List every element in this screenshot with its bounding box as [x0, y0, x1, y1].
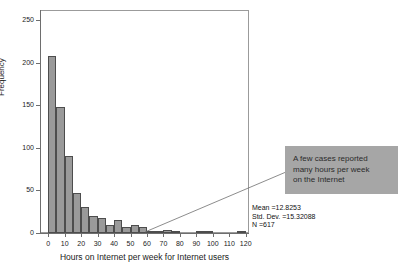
y-tick-label: 100	[22, 143, 34, 152]
y-axis-line	[40, 10, 41, 233]
histogram-bar	[114, 220, 122, 233]
x-tick-mark	[213, 233, 214, 237]
x-tick-label: 0	[46, 239, 50, 248]
y-tick-mark	[36, 148, 40, 149]
x-tick-label: 10	[61, 239, 69, 248]
histogram-bar	[56, 107, 64, 233]
y-tick-label: 0	[30, 228, 34, 237]
histogram-bar	[48, 56, 56, 233]
x-axis-title: Hours on Internet per week for Internet …	[40, 252, 249, 263]
x-tick-label: 120	[240, 239, 252, 248]
histogram-bar	[73, 193, 81, 233]
y-tick-mark	[36, 63, 40, 64]
y-tick-label: 250	[22, 15, 34, 24]
stat-mean: Mean =12.8253	[252, 204, 316, 213]
x-tick-mark	[114, 233, 115, 237]
x-tick-mark	[81, 233, 82, 237]
x-tick-label: 50	[127, 239, 135, 248]
x-tick-label: 90	[192, 239, 200, 248]
histogram-bar	[81, 207, 89, 233]
x-axis-line	[40, 233, 249, 234]
x-tick-label: 70	[160, 239, 168, 248]
x-tick-mark	[180, 233, 181, 237]
histogram-bar	[89, 216, 97, 233]
x-tick-label: 60	[143, 239, 151, 248]
x-tick-mark	[196, 233, 197, 237]
x-tick-label: 30	[94, 239, 102, 248]
callout-line-1: A few cases reported	[293, 154, 391, 165]
x-tick-mark	[65, 233, 66, 237]
histogram-bar	[106, 225, 114, 233]
x-tick-label: 110	[224, 239, 235, 248]
histogram-bars	[40, 10, 249, 233]
x-tick-mark	[229, 233, 230, 237]
x-tick-label: 20	[77, 239, 85, 248]
x-tick-mark	[246, 233, 247, 237]
histogram-figure: 050100150200250 Frequency 01020304050607…	[0, 0, 407, 275]
x-tick-label: 80	[176, 239, 184, 248]
x-tick-mark	[98, 233, 99, 237]
stat-n: N =617	[252, 221, 316, 230]
callout-line-3: on the Internet	[293, 175, 391, 186]
y-tick-mark	[36, 190, 40, 191]
statistics-block: Mean =12.8253 Std. Dev. =15.32088 N =617	[252, 204, 316, 230]
y-tick-label: 150	[22, 100, 34, 109]
x-tick-label: 40	[110, 239, 118, 248]
histogram-bar	[98, 218, 106, 233]
y-axis-title: Frequency	[0, 58, 6, 96]
y-tick-label: 200	[22, 58, 34, 67]
x-tick-mark	[147, 233, 148, 237]
histogram-bar	[131, 225, 139, 233]
histogram-bar	[65, 156, 73, 233]
y-tick-label: 50	[26, 185, 34, 194]
y-tick-mark	[36, 105, 40, 106]
x-tick-label: 100	[207, 239, 219, 248]
y-tick-mark	[36, 20, 40, 21]
x-tick-mark	[131, 233, 132, 237]
x-tick-mark	[48, 233, 49, 237]
stat-std-dev: Std. Dev. =15.32088	[252, 213, 316, 222]
callout-annotation: A few cases reported many hours per week…	[285, 146, 398, 194]
callout-line-2: many hours per week	[293, 165, 391, 176]
x-tick-mark	[163, 233, 164, 237]
